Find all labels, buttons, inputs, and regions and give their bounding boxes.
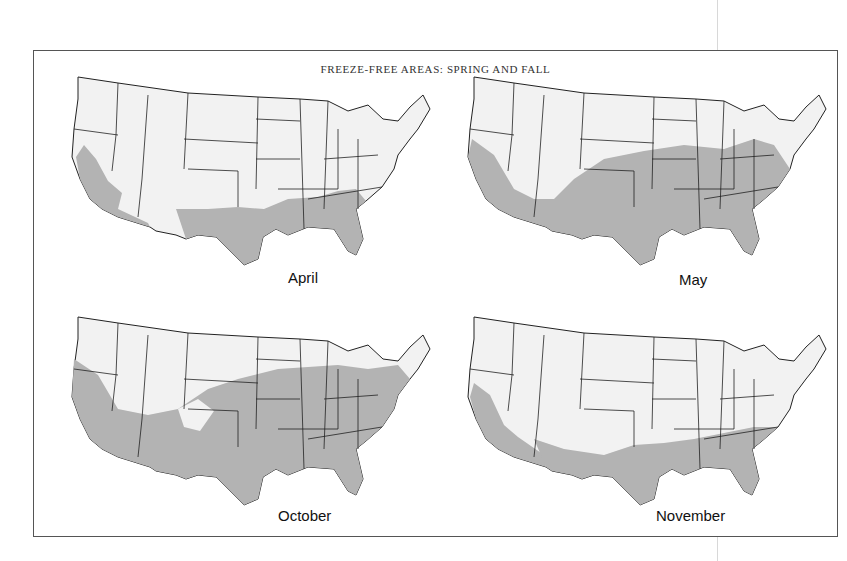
month-label-october: October (278, 507, 331, 524)
figure-frame: FREEZE-FREE AREAS: SPRING AND FALL April… (33, 50, 838, 537)
us-map-october (38, 299, 438, 539)
map-panel-may: May (434, 59, 834, 299)
map-panel-november: November (434, 299, 834, 539)
map-panel-april: April (38, 59, 438, 299)
us-map-may (434, 59, 834, 299)
month-label-april: April (288, 269, 318, 286)
month-label-november: November (656, 507, 725, 524)
month-label-may: May (679, 271, 707, 288)
map-panel-october: October (38, 299, 438, 539)
us-map-april (38, 59, 438, 299)
us-map-november (434, 299, 834, 539)
